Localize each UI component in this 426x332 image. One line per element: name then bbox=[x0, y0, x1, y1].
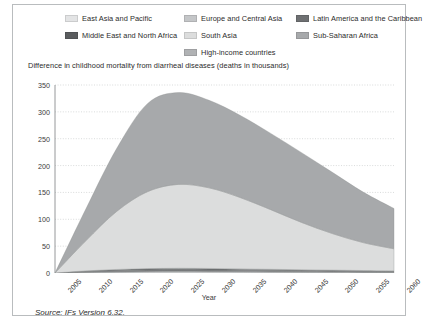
source-note: Source: IFs Version 6.32. bbox=[35, 308, 125, 317]
y-axis-tick-label: 150 bbox=[28, 188, 50, 197]
legend-column-2: Europe and Central AsiaSouth AsiaHigh-in… bbox=[184, 11, 296, 62]
legend-swatch-icon-latin-america-and-the-caribbean bbox=[296, 15, 309, 22]
legend-label: East Asia and Pacific bbox=[82, 14, 152, 23]
legend-item-sub-saharan-africa[interactable]: Sub-Saharan Africa bbox=[296, 28, 426, 43]
x-axis-title: Year bbox=[13, 293, 405, 302]
chart-legend: East Asia and PacificMiddle East and Nor… bbox=[13, 11, 405, 57]
chart-title: Difference in childhood mortality from d… bbox=[28, 61, 289, 70]
legend-column-3: Latin America and the CaribbeanSub-Sahar… bbox=[296, 11, 426, 45]
legend-label: South Asia bbox=[201, 31, 237, 40]
legend-item-latin-america-and-the-caribbean[interactable]: Latin America and the Caribbean bbox=[296, 11, 426, 26]
legend-item-europe-and-central-asia[interactable]: Europe and Central Asia bbox=[184, 11, 296, 26]
legend-item-high-income-countries[interactable]: High-income countries bbox=[184, 45, 296, 60]
y-axis-tick-label: 50 bbox=[28, 242, 50, 251]
legend-label: High-income countries bbox=[201, 48, 276, 57]
legend-swatch-icon-sub-saharan-africa bbox=[296, 32, 309, 39]
legend-swatch-icon-high-income-countries bbox=[184, 49, 197, 56]
legend-item-south-asia[interactable]: South Asia bbox=[184, 28, 296, 43]
y-axis-tick-label: 200 bbox=[28, 161, 50, 170]
legend-swatch-icon-europe-and-central-asia bbox=[184, 15, 197, 22]
y-axis-tick-label: 350 bbox=[28, 81, 50, 90]
legend-swatch-icon-east-asia-and-pacific bbox=[65, 15, 78, 22]
figure-container: East Asia and PacificMiddle East and Nor… bbox=[12, 4, 406, 316]
stacked-area-chart bbox=[28, 73, 398, 273]
legend-label: Europe and Central Asia bbox=[201, 14, 282, 23]
y-axis-tick-label: 0 bbox=[28, 269, 50, 278]
plot-area: 0501001502002503003502005201020152020202… bbox=[28, 73, 398, 273]
legend-swatch-icon-middle-east-and-north-africa bbox=[65, 32, 78, 39]
legend-label: Sub-Saharan Africa bbox=[313, 31, 378, 40]
y-axis-tick-label: 100 bbox=[28, 215, 50, 224]
legend-label: Middle East and North Africa bbox=[82, 31, 177, 40]
area-series-group bbox=[55, 93, 394, 273]
y-axis-tick-label: 300 bbox=[28, 107, 50, 116]
x-axis-tick-label: 2060 bbox=[405, 277, 423, 295]
y-axis-tick-label: 250 bbox=[28, 134, 50, 143]
legend-label: Latin America and the Caribbean bbox=[313, 14, 422, 23]
legend-swatch-icon-south-asia bbox=[184, 32, 197, 39]
